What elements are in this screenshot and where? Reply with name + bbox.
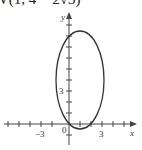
chart-plot: −3 0 3 x 3 y	[0, 0, 142, 150]
x-axis-arrow-icon	[130, 121, 137, 127]
y-axis-label: y	[60, 12, 65, 22]
x-axis-label: x	[129, 128, 134, 138]
x-tick-label-3: 3	[99, 129, 104, 139]
ellipse-curve	[56, 31, 104, 129]
y-tick-label-3: 3	[59, 86, 64, 96]
y-axis-arrow-icon	[66, 12, 72, 19]
x-tick-label-neg3: −3	[35, 129, 45, 139]
origin-label: 0	[62, 125, 67, 135]
x-axis: −3 0 3 x	[4, 121, 137, 139]
